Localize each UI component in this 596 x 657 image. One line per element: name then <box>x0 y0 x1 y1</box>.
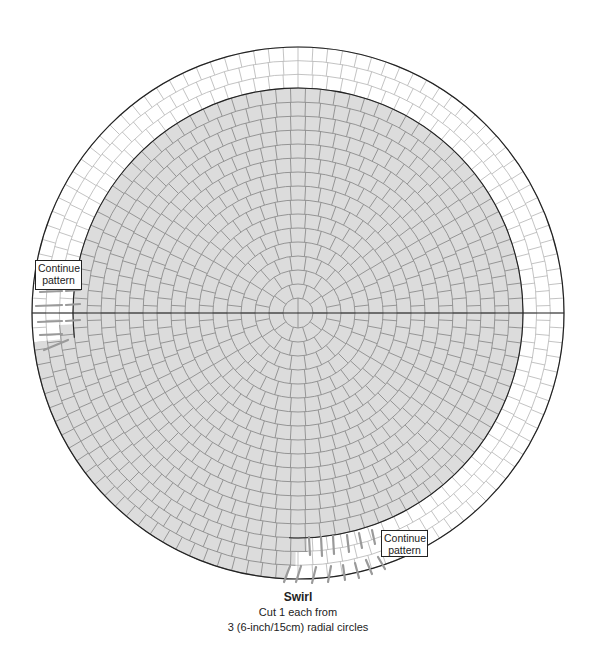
caption-line-1: Cut 1 each from <box>0 606 596 618</box>
caption-title: Swirl <box>0 590 596 604</box>
label-line: Continue <box>38 262 79 274</box>
label-line: pattern <box>38 274 79 286</box>
label-line: Continue <box>384 532 425 544</box>
continue-pattern-label-left: Continue pattern <box>35 260 82 290</box>
gray-swirl-region <box>34 88 523 579</box>
caption-line-2: 3 (6-inch/15cm) radial circles <box>0 621 596 633</box>
continue-pattern-label-right: Continue pattern <box>381 530 428 557</box>
swirl-paver-diagram <box>0 0 596 657</box>
label-line: pattern <box>384 544 425 556</box>
